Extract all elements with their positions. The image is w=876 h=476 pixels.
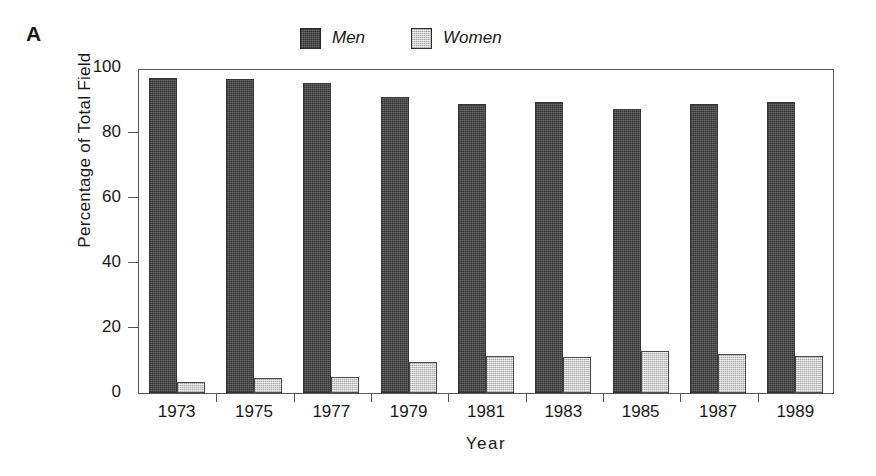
y-axis-tick: 0 (128, 392, 139, 393)
x-axis-tick (294, 393, 295, 402)
x-axis-tick (448, 393, 449, 402)
x-axis-tick-label: 1987 (679, 402, 756, 422)
bar-women (641, 351, 669, 393)
y-axis-tick-label: 100 (93, 57, 121, 77)
bar-men (458, 104, 486, 393)
chart-legend: Men Women (300, 24, 620, 52)
bar-women (563, 357, 591, 393)
x-axis-tick (603, 393, 604, 402)
chart-figure: A Men Women Percentage of Total Field 02… (0, 0, 876, 476)
bar-women (409, 362, 437, 393)
x-axis-tick-label: 1977 (293, 402, 370, 422)
bar-women (486, 356, 514, 393)
x-axis-tick (216, 393, 217, 402)
bar-men (303, 83, 331, 393)
y-axis-tick: 20 (128, 327, 139, 328)
bar-women (718, 354, 746, 393)
bar-men (535, 102, 563, 393)
x-axis-tick-label: 1975 (215, 402, 292, 422)
y-axis-tick: 40 (128, 262, 139, 263)
x-axis-tick-label: 1979 (370, 402, 447, 422)
x-axis-tick (371, 393, 372, 402)
legend-swatch-women-icon (411, 28, 432, 49)
legend-swatch-men-icon (300, 28, 321, 49)
legend-label-women: Women (443, 28, 502, 48)
x-axis-tick (758, 393, 759, 402)
bar-women (795, 356, 823, 393)
bar-women (177, 382, 205, 393)
x-axis-tick-label: 1989 (757, 402, 834, 422)
y-axis-tick-label: 40 (102, 252, 121, 272)
x-axis-title: Year (138, 434, 834, 454)
plot-area: 020406080100 (138, 69, 834, 394)
bar-women (254, 378, 282, 393)
plot-inner: 020406080100 (139, 70, 833, 393)
x-axis-tick-label: 1981 (447, 402, 524, 422)
y-axis-tick: 60 (128, 197, 139, 198)
x-axis-tick-label: 1983 (525, 402, 602, 422)
y-axis-tick: 80 (128, 132, 139, 133)
y-axis-tick-label: 80 (102, 122, 121, 142)
x-axis-tick (680, 393, 681, 402)
bar-men (381, 97, 409, 393)
bar-men (613, 109, 641, 393)
y-axis-tick-label: 20 (102, 317, 121, 337)
bar-women (331, 377, 359, 393)
y-axis-tick-label: 60 (102, 187, 121, 207)
y-axis-title: Percentage of Total Field (75, 0, 95, 315)
y-axis-tick-label: 0 (112, 382, 121, 402)
bar-men (226, 79, 254, 393)
legend-entry-men: Men (300, 28, 365, 49)
x-axis-tick-label: 1985 (602, 402, 679, 422)
panel-label: A (26, 22, 41, 46)
bar-men (149, 78, 177, 393)
legend-label-men: Men (332, 28, 365, 48)
legend-entry-women: Women (411, 28, 502, 49)
x-axis-tick (526, 393, 527, 402)
x-axis-tick-label: 1973 (138, 402, 215, 422)
bar-men (767, 102, 795, 393)
y-axis-tick: 100 (128, 67, 139, 68)
bar-men (690, 104, 718, 393)
